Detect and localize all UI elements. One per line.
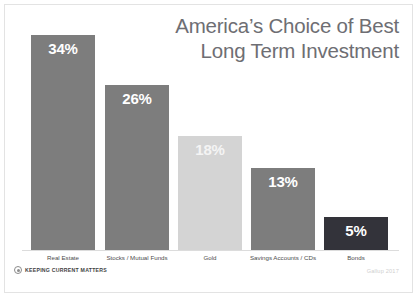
- circle-logo-icon: [14, 266, 22, 274]
- bar-value-label-bonds: 5%: [324, 222, 388, 239]
- brand-footer: Keeping Current Matters: [14, 266, 107, 274]
- bar-value-label-real-estate: 34%: [31, 40, 95, 57]
- slide-canvas: America’s Choice of Best Long Term Inves…: [0, 0, 417, 297]
- bar-value-label-gold: 18%: [178, 141, 242, 158]
- chart-baseline-axis: [22, 250, 399, 251]
- bar-savings-accounts-cds[interactable]: 13%: [251, 168, 315, 250]
- bar-group-bonds[interactable]: 5% Bonds: [324, 217, 388, 250]
- source-attribution: Gallup 2017: [367, 268, 399, 274]
- bar-gold[interactable]: 18%: [178, 136, 242, 250]
- bar-group-savings-accounts-cds[interactable]: 13% Savings Accounts / CDs: [251, 168, 315, 250]
- bar-stocks-mutual-funds[interactable]: 26%: [105, 85, 169, 250]
- bar-real-estate[interactable]: 34%: [31, 35, 95, 250]
- bar-value-label-stocks-mutual-funds: 26%: [105, 90, 169, 107]
- category-label-bonds: Bonds: [302, 254, 410, 261]
- bar-group-gold[interactable]: 18% Gold: [178, 136, 242, 250]
- bar-group-real-estate[interactable]: 34% Real Estate: [31, 35, 95, 250]
- bar-bonds[interactable]: 5%: [324, 217, 388, 250]
- bar-value-label-savings-accounts-cds: 13%: [251, 173, 315, 190]
- bar-group-stocks-mutual-funds[interactable]: 26% Stocks / Mutual Funds: [105, 85, 169, 250]
- bar-chart-plot-area: 34% Real Estate 26% Stocks / Mutual Fund…: [0, 0, 417, 297]
- brand-name-label: Keeping Current Matters: [25, 267, 107, 273]
